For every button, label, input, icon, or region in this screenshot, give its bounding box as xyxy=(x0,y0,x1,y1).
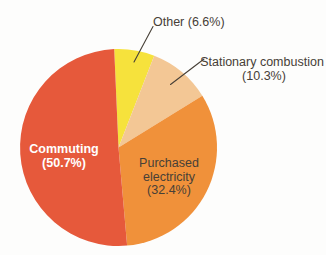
purchased-electricity-slice-label-line1: Purchased xyxy=(139,156,199,170)
commuting-slice-value: (50.7%) xyxy=(42,156,86,170)
pie-chart-figure: Other (6.6%) Stationary combustion (10.3… xyxy=(0,0,326,255)
purchased-electricity-slice-value: (32.4%) xyxy=(147,183,191,197)
stationary-combustion-slice-label: Stationary combustion xyxy=(200,55,324,69)
commuting-slice-label: Commuting xyxy=(29,142,98,156)
purchased-electricity-slice-label-line2: electricity xyxy=(143,170,196,184)
pie-chart-svg: Other (6.6%) Stationary combustion (10.3… xyxy=(0,0,326,255)
stationary-combustion-slice-value: (10.3%) xyxy=(242,69,286,83)
other-slice-label: Other (6.6%) xyxy=(153,15,225,29)
